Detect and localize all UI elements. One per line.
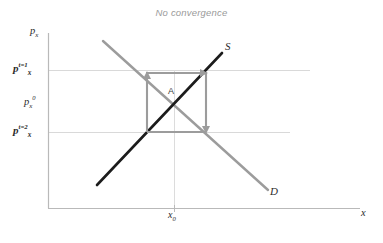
y-tick-p-x0-sub: x xyxy=(29,102,32,109)
y-axis-label: px xyxy=(30,26,38,39)
x-tick-x0-sub: 0 xyxy=(172,215,175,222)
cobweb-diagram-canvas xyxy=(0,0,383,243)
y-tick-p-t1-sub: x xyxy=(28,69,32,77)
y-tick-p-t2-sup: t=2 xyxy=(19,123,28,130)
supply-curve-label: S xyxy=(225,41,231,52)
equilibrium-point-label: A xyxy=(168,87,174,96)
y-tick-p-t1-sup: t=1 xyxy=(19,61,28,68)
demand-curve-label: D xyxy=(270,186,278,197)
figure-no-convergence: No convergence px x pt=1x xyxy=(0,0,383,243)
y-tick-label-p-x0: px0 xyxy=(24,95,36,110)
y-tick-p-t2-sub: x xyxy=(28,131,32,139)
x-axis-label: x xyxy=(361,208,366,219)
y-tick-label-p-t2: pt=2x xyxy=(13,124,31,139)
y-tick-p-x0-sup: 0 xyxy=(32,94,35,101)
x-tick-label-x0: x0 xyxy=(168,210,176,223)
demand-curve xyxy=(103,41,268,190)
y-axis-label-sub: x xyxy=(35,31,38,38)
y-tick-label-p-t1: pt=1x xyxy=(13,62,31,77)
